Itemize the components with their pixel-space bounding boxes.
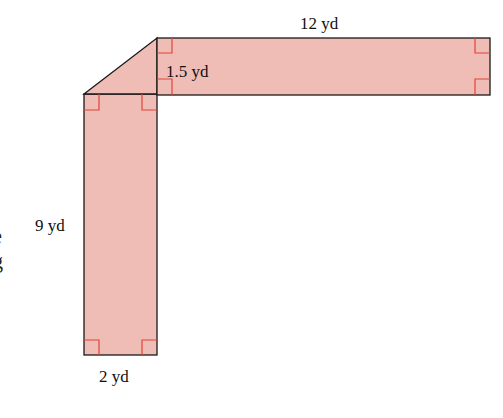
label-bottom-width: 2 yd [99, 367, 129, 386]
label-top-width: 1.5 yd [166, 62, 209, 81]
l-shaped-figure: 12 yd 1.5 yd 9 yd 2 yd e g [0, 0, 503, 418]
label-top-length: 12 yd [300, 14, 339, 33]
corner-triangle [84, 38, 157, 94]
vertical-rectangle [84, 94, 157, 355]
label-left-length: 9 yd [35, 216, 65, 235]
clipped-text-line1: e [0, 225, 2, 247]
clipped-text-line2: g [0, 250, 3, 273]
